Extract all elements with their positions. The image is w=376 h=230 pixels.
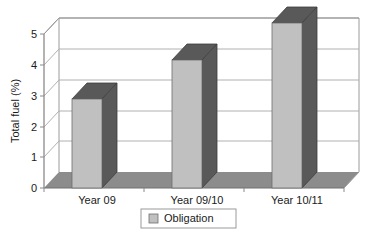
legend-swatch-obligation bbox=[149, 214, 158, 223]
bar-year-09 bbox=[72, 83, 117, 188]
legend: Obligation bbox=[141, 209, 236, 228]
chart-container: 5 4 3 2 1 0 Total fuel (%) bbox=[0, 0, 376, 230]
y-tick-label-4: 4 bbox=[31, 59, 37, 71]
x-category-label-year-09: Year 09 bbox=[78, 194, 116, 206]
bar-front-face bbox=[172, 60, 202, 188]
x-category-labels: Year 09 Year 09/10 Year 10/11 bbox=[78, 194, 323, 206]
bar-side-face bbox=[102, 83, 117, 188]
y-tick-labels: 5 4 3 2 1 0 bbox=[31, 28, 37, 194]
bar-year-10-11 bbox=[272, 7, 317, 188]
y-tick-label-3: 3 bbox=[31, 90, 37, 102]
bar-front-face bbox=[272, 23, 302, 188]
x-category-label-year-10-11: Year 10/11 bbox=[271, 194, 323, 206]
y-tick-label-5: 5 bbox=[31, 28, 37, 40]
y-axis-title: Total fuel (%) bbox=[9, 79, 21, 143]
y-axis bbox=[40, 34, 44, 188]
bar-chart-3d: 5 4 3 2 1 0 Total fuel (%) bbox=[0, 0, 376, 230]
left-wall bbox=[44, 18, 59, 188]
y-tick-label-1: 1 bbox=[31, 151, 37, 163]
x-category-label-year-09-10: Year 09/10 bbox=[171, 194, 224, 206]
bar-side-face bbox=[302, 7, 317, 188]
bar-side-face bbox=[202, 44, 217, 188]
bar-year-09-10 bbox=[172, 44, 217, 188]
y-tick-label-2: 2 bbox=[31, 121, 37, 133]
y-tick-label-0: 0 bbox=[31, 182, 37, 194]
bar-front-face bbox=[72, 99, 102, 188]
legend-label-obligation: Obligation bbox=[164, 212, 214, 224]
x-axis bbox=[44, 188, 344, 192]
